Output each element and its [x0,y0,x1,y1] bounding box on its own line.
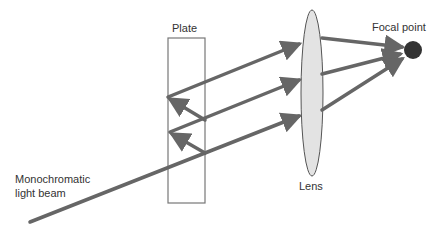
beam-to-focus-3 [322,59,402,110]
beam-to-lens-3 [205,116,299,153]
beam-to-focus-1 [322,38,402,47]
beam-to-focus-2 [322,54,400,74]
focal-point-label: Focal point [372,20,426,34]
internal-reflection-1 [172,134,205,153]
focal-point [404,41,422,59]
lens-label: Lens [299,179,323,193]
optics-diagram [0,0,433,236]
beam-label-line2: light beam [15,186,66,200]
diagram-canvas: Plate Lens Focal point Monochromatic lig… [0,0,433,236]
beam-label-line1: Monochromatic [15,172,90,186]
plate-label: Plate [172,21,197,35]
internal-reflection-2 [170,99,205,120]
lens [301,10,323,176]
